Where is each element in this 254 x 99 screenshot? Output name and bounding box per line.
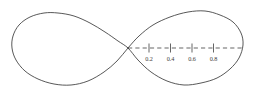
tick-label-0-2: 0.2 xyxy=(145,55,153,62)
tick-label-0-8: 0.8 xyxy=(210,55,218,62)
figure-container: 0.2 0.4 0.6 0.8 xyxy=(0,0,254,99)
tick-label-0-6: 0.6 xyxy=(188,55,196,62)
lemniscate-chart: 0.2 0.4 0.6 0.8 xyxy=(0,0,254,99)
tick-label-0-4: 0.4 xyxy=(167,55,175,62)
